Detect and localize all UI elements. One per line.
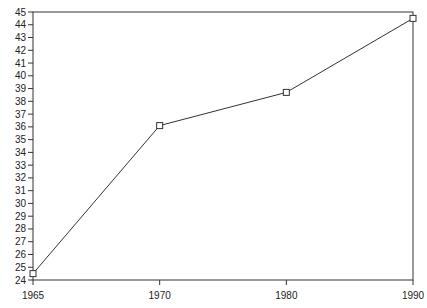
series-line [33,18,413,273]
y-tick-label: 34 [15,147,27,158]
y-tick-label: 24 [15,275,27,286]
y-tick-label: 44 [15,19,27,30]
y-tick-label: 32 [15,172,27,183]
data-series [30,15,416,276]
y-tick-label: 28 [15,223,27,234]
y-tick-label: 35 [15,134,27,145]
y-tick-label: 42 [15,45,27,56]
y-tick-label: 33 [15,160,27,171]
y-tick-label: 26 [15,249,27,260]
square-marker-icon [283,89,289,95]
y-tick-label: 30 [15,198,27,209]
y-tick-label: 38 [15,96,27,107]
y-tick-label: 29 [15,211,27,222]
x-tick-label: 1990 [402,290,425,301]
y-tick-label: 40 [15,70,27,81]
y-tick-label: 31 [15,185,27,196]
x-tick-label: 1965 [22,290,45,301]
y-tick-label: 39 [15,83,27,94]
x-axis: 1965197019801990 [22,280,425,301]
y-axis: 2425262728293031323334353637383940414243… [15,7,33,286]
y-tick-label: 37 [15,109,27,120]
y-tick-label: 41 [15,58,27,69]
square-marker-icon [30,271,36,277]
line-chart: 2425262728293031323334353637383940414243… [0,0,427,308]
square-marker-icon [410,15,416,21]
y-tick-label: 27 [15,236,27,247]
y-tick-label: 36 [15,121,27,132]
y-tick-label: 45 [15,7,27,18]
y-tick-label: 25 [15,262,27,273]
x-tick-label: 1970 [149,290,172,301]
y-tick-label: 43 [15,32,27,43]
x-tick-label: 1980 [275,290,298,301]
square-marker-icon [157,123,163,129]
